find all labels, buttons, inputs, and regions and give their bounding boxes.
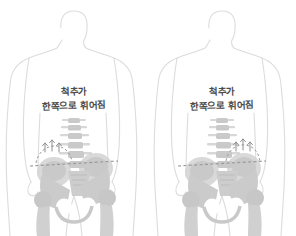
figure-left: 척추가 한쪽으로 휘어짐 [0, 0, 148, 236]
figure-left-graphic: 척추가 한쪽으로 휘어짐 [0, 0, 148, 236]
figure-center: 척추가 한쪽으로 휘어짐 [148, 0, 296, 236]
tilt-arrow-marks [43, 140, 62, 152]
figure-center-graphic: 척추가 한쪽으로 휘어짐 [148, 0, 296, 236]
illustration-canvas: 척추가 한쪽으로 휘어짐 [0, 0, 296, 236]
femur-left [182, 191, 200, 236]
skeleton-group [182, 118, 264, 236]
annotation-line-1: 척추가 [209, 86, 236, 98]
tilt-arrow-marks [234, 139, 253, 151]
annotation-line-2: 한쪽으로 휘어짐 [42, 99, 106, 112]
femur-left [34, 191, 52, 236]
annotation-line-2: 한쪽으로 휘어짐 [190, 99, 254, 112]
annotation-line-1: 척추가 [61, 86, 88, 98]
body-outline [6, 11, 137, 236]
handwritten-annotation: 척추가 한쪽으로 휘어짐 [190, 86, 254, 112]
femur-right [98, 189, 116, 236]
skeleton-group [34, 118, 116, 236]
body-outline [154, 11, 285, 236]
handwritten-annotation: 척추가 한쪽으로 휘어짐 [42, 86, 106, 112]
femur-right [246, 189, 264, 236]
